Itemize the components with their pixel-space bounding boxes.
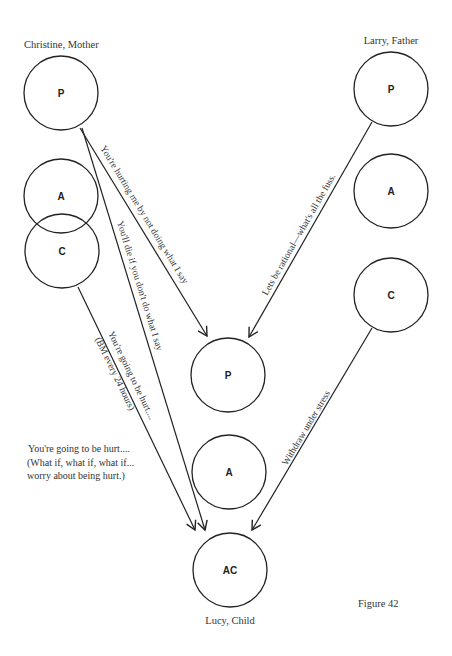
arrow-icon <box>249 122 372 337</box>
figure-caption: Figure 42 <box>358 598 399 609</box>
side-note: You're going to be hurt.... (What if, wh… <box>27 443 134 482</box>
father-label: Larry, Father <box>364 35 419 46</box>
svg-text:You're going to be hurt....: You're going to be hurt.... <box>28 443 130 454</box>
child-adult-state: A <box>192 435 266 509</box>
arrow-icon <box>252 328 372 530</box>
father-adult-state: A <box>354 154 428 228</box>
svg-text:P: P <box>225 370 232 381</box>
svg-text:worry about being hurt.): worry about being hurt.) <box>27 470 125 482</box>
child-label: Lucy, Child <box>205 615 255 626</box>
arrow-icon <box>78 287 195 530</box>
child-parent-state: P <box>191 338 265 412</box>
svg-text:P: P <box>388 84 395 95</box>
transaction-mother-c-to-child-ac: You're going to be hurt.... (BM every 24… <box>78 287 195 530</box>
transaction-father-p-to-child-p: Lets be rational—what's all the fuss. <box>249 122 372 337</box>
svg-text:P: P <box>58 88 65 99</box>
svg-text:Withdraw under stress: Withdraw under stress <box>280 388 332 467</box>
svg-text:A: A <box>225 467 232 478</box>
mother-parent-state: P <box>24 56 98 130</box>
svg-text:A: A <box>387 186 394 197</box>
svg-text:AC: AC <box>223 565 237 576</box>
transaction-father-c-to-child-ac: Withdraw under stress <box>252 328 372 530</box>
svg-text:Lets be rational—what's all th: Lets be rational—what's all the fuss. <box>260 172 337 297</box>
child-adapted-child-state: AC <box>193 533 267 607</box>
svg-text:You're hurting me by not doing: You're hurting me by not doing what I sa… <box>98 144 190 286</box>
father-parent-state: P <box>354 52 428 126</box>
svg-text:A: A <box>57 191 64 202</box>
transactional-diagram: Christine, Mother P A C Larry, Father P … <box>0 0 452 656</box>
svg-text:(What if, what if, what if...: (What if, what if, what if... <box>27 457 134 469</box>
mother-label: Christine, Mother <box>24 39 99 50</box>
mother-child-state: C <box>25 214 99 288</box>
mother-adult-state: A <box>24 159 98 233</box>
father-child-state: C <box>354 258 428 332</box>
svg-text:C: C <box>387 290 394 301</box>
svg-text:C: C <box>58 246 65 257</box>
